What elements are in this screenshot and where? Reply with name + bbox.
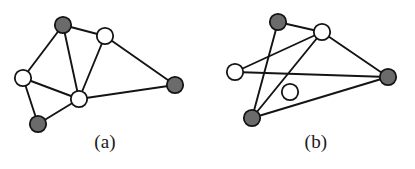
graph-edge xyxy=(235,32,322,72)
node-b-right-dark xyxy=(380,69,396,85)
graph-a xyxy=(15,17,183,132)
graph-edge xyxy=(105,36,175,85)
node-a-top-dark xyxy=(55,17,71,33)
graph-b xyxy=(227,14,396,126)
graph-edge xyxy=(252,77,388,118)
node-a-upper-right-light xyxy=(97,28,113,44)
node-b-top-dark xyxy=(270,14,286,30)
graph-edge xyxy=(23,25,63,78)
node-a-right-dark xyxy=(167,77,183,93)
node-a-left-light xyxy=(15,70,31,86)
node-a-center-light xyxy=(71,91,87,107)
figure-container: (a) (b) xyxy=(0,0,415,169)
graph-edge xyxy=(79,85,175,99)
graph-edge xyxy=(235,72,388,77)
graph-edge xyxy=(322,32,388,77)
graph-edge xyxy=(63,25,79,99)
graph-edge xyxy=(79,36,105,99)
node-a-bottom-dark xyxy=(30,116,46,132)
node-b-bottom-dark xyxy=(244,110,260,126)
node-b-upper-right-light xyxy=(314,24,330,40)
graph-edge xyxy=(252,22,278,118)
node-b-center-light xyxy=(282,84,298,100)
caption-a: (a) xyxy=(60,131,150,153)
caption-b: (b) xyxy=(271,131,361,153)
node-b-left-light xyxy=(227,64,243,80)
